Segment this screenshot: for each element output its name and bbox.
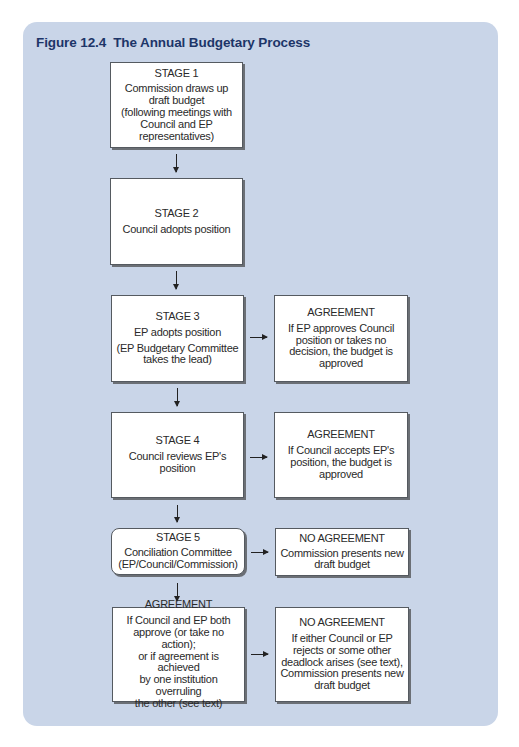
stage-2-box: STAGE 2 Council adopts position xyxy=(110,178,243,265)
outcome-1-line: approved xyxy=(319,358,363,370)
stage-3-line: EP adopts position xyxy=(134,327,221,339)
figure-panel xyxy=(23,22,498,726)
outcome-2-line: approved xyxy=(319,469,363,481)
stage-2-label: STAGE 2 xyxy=(155,208,199,220)
stage-5-label: STAGE 5 xyxy=(156,532,200,544)
stage-5-line: (EP/Council/Commission) xyxy=(118,559,238,571)
arrow-right-icon xyxy=(250,337,267,338)
arrow-down-icon xyxy=(176,154,177,172)
stage-4-line: position xyxy=(160,463,196,475)
outcome-3-label: NO AGREEMENT xyxy=(299,533,385,545)
stage-1-line: representatives) xyxy=(139,131,214,143)
final-agreement-line: or if agreement is achieved xyxy=(117,651,240,675)
outcome-3-line: draft budget xyxy=(314,559,370,571)
stage-5-box: STAGE 5 Conciliation Committee (EP/Counc… xyxy=(111,528,245,575)
final-agreement-box: AGREEMENT If Council and EP both approve… xyxy=(112,607,245,702)
stage-3-box: STAGE 3 EP adopts position (EP Budgetary… xyxy=(111,295,244,382)
stage-3-label: STAGE 3 xyxy=(156,311,200,323)
stage-4-box: STAGE 4 Council reviews EP's position xyxy=(111,412,244,498)
stage-2-line: Council adopts position xyxy=(123,224,231,236)
outcome-4-line: rejects or some other xyxy=(293,645,391,657)
outcome-4-label: NO AGREEMENT xyxy=(299,617,385,629)
stage-1-box: STAGE 1 Commission draws up draft budget… xyxy=(110,62,243,148)
outcome-4-line: draft budget xyxy=(314,680,370,692)
stage-1-line: Council and EP xyxy=(140,119,212,131)
figure-title: Figure 12.4The Annual Budgetary Process xyxy=(36,35,310,50)
outcome-1-line: If EP approves Council xyxy=(288,323,394,335)
arrow-down-icon xyxy=(177,388,178,406)
arrow-right-icon xyxy=(250,457,267,458)
stage-3-sub: takes the lead) xyxy=(143,354,211,366)
arrow-right-icon xyxy=(251,552,268,553)
outcome-agreement-1-box: AGREEMENT If EP approves Council positio… xyxy=(274,295,408,382)
final-agreement-line: approve (or take no action); xyxy=(117,627,240,651)
stage-4-label: STAGE 4 xyxy=(156,435,200,447)
final-agreement-label: AGREEMENT xyxy=(145,599,212,611)
final-agreement-line: by one institution overruling xyxy=(117,674,240,698)
outcome-4-line: If either Council or EP xyxy=(291,633,392,645)
arrow-right-icon xyxy=(251,654,268,655)
outcome-1-label: AGREEMENT xyxy=(307,307,374,319)
outcome-agreement-2-box: AGREEMENT If Council accepts EP's positi… xyxy=(274,412,408,498)
outcome-no-agreement-2-box: NO AGREEMENT If either Council or EP rej… xyxy=(275,607,409,702)
figure-number: Figure 12.4 xyxy=(36,35,106,50)
arrow-down-icon xyxy=(177,505,178,522)
stage-1-label: STAGE 1 xyxy=(155,68,199,80)
outcome-no-agreement-1-box: NO AGREEMENT Commission presents new dra… xyxy=(275,528,409,576)
figure-caption: The Annual Budgetary Process xyxy=(113,35,310,50)
outcome-2-label: AGREEMENT xyxy=(307,429,374,441)
final-agreement-line: the other (see text) xyxy=(135,698,222,710)
arrow-down-icon xyxy=(176,271,177,289)
